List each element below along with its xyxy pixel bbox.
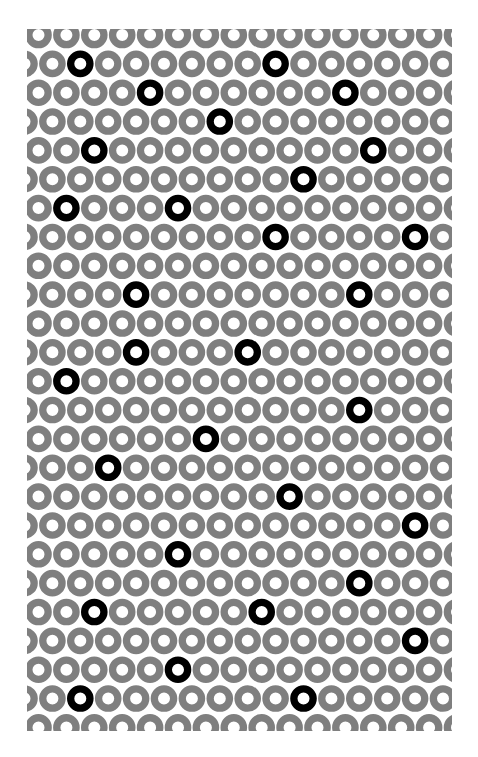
ring-pattern [0,0,478,757]
